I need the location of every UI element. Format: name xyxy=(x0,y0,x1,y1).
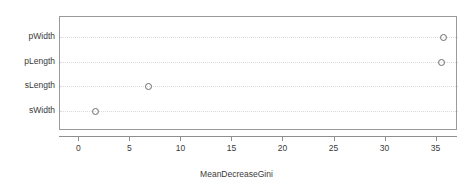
gridline xyxy=(60,62,458,64)
data-point xyxy=(440,34,447,41)
y-axis-label-plength: pLength xyxy=(0,57,55,66)
x-axis-tick xyxy=(231,136,232,141)
x-axis-tick xyxy=(436,136,437,141)
x-axis-title: MeanDecreaseGini xyxy=(0,169,473,179)
x-axis-tick-label: 35 xyxy=(416,143,456,153)
x-axis-tick-label: 15 xyxy=(211,143,251,153)
y-axis-label-slength: sLength xyxy=(0,81,55,90)
y-axis-label-swidth: sWidth xyxy=(0,106,55,115)
x-axis-tick-label: 0 xyxy=(58,143,98,153)
x-axis-tick xyxy=(282,136,283,141)
y-axis-label-pwidth: pWidth xyxy=(0,32,55,41)
x-axis-tick-label: 20 xyxy=(262,143,302,153)
x-axis-line xyxy=(59,136,457,137)
x-axis-tick-label: 30 xyxy=(365,143,405,153)
x-axis-tick xyxy=(129,136,130,141)
plot-area xyxy=(59,16,457,130)
data-point xyxy=(438,59,445,66)
data-point xyxy=(92,108,99,115)
x-axis-tick-label: 25 xyxy=(314,143,354,153)
x-axis-tick xyxy=(78,136,79,141)
data-point xyxy=(145,83,152,90)
x-axis-tick xyxy=(334,136,335,141)
x-axis-tick xyxy=(385,136,386,141)
gridline xyxy=(60,111,458,113)
gridline xyxy=(60,86,458,88)
x-axis-tick-label: 5 xyxy=(109,143,149,153)
x-axis-tick-label: 10 xyxy=(160,143,200,153)
dotchart-figure: pWidthpLengthsLengthsWidth 0510152025303… xyxy=(0,0,473,189)
x-axis-tick xyxy=(180,136,181,141)
gridline xyxy=(60,37,458,39)
